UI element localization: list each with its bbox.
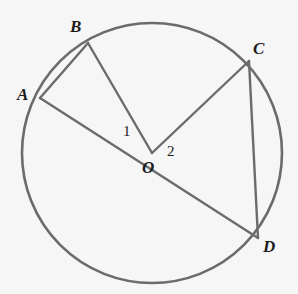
point-label-c: C: [253, 40, 264, 57]
angle-label-1: 1: [123, 124, 131, 139]
geometry-figure: A B C D O 1 2: [0, 0, 298, 294]
point-label-a: A: [17, 86, 28, 103]
point-label-o: O: [142, 159, 154, 176]
point-label-b: B: [70, 18, 81, 35]
chord-AB: [40, 43, 88, 98]
angle-label-2: 2: [167, 144, 175, 159]
chord-CD: [249, 61, 258, 238]
radius-OC: [152, 61, 249, 153]
radius-BO: [88, 43, 152, 153]
point-label-d: D: [263, 238, 275, 255]
